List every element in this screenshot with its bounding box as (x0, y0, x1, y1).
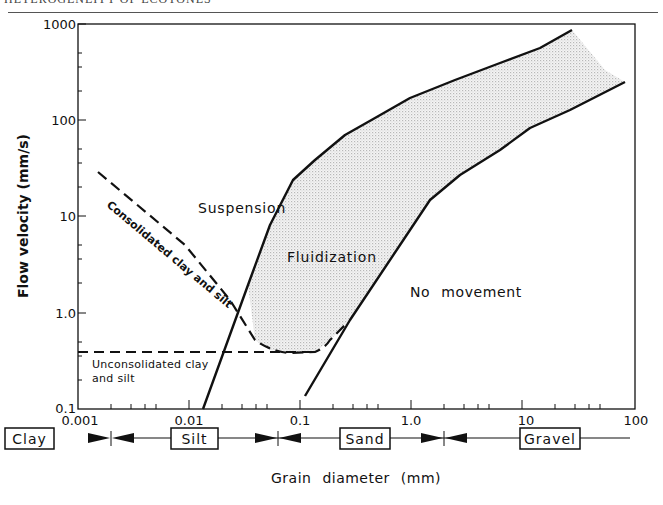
x-tick-100: 100 (624, 413, 649, 428)
suspension-label: Suspension (198, 200, 286, 216)
no-movement-label: No movement (410, 284, 522, 300)
x-tick-10: 10 (518, 413, 535, 428)
class-label-clay: Clay (12, 431, 47, 447)
fluidization-region (248, 30, 625, 353)
y-tick-labels: 1000 100 10 1.0 0.1 (43, 17, 76, 416)
y-axis-ticks (78, 24, 86, 380)
x-tick-1.0: 1.0 (401, 413, 422, 428)
x-axis-title: Grain diameter (mm) (271, 470, 441, 486)
x-tick-0.01: 0.01 (175, 413, 204, 428)
class-label-gravel: Gravel (524, 431, 576, 447)
fluidization-label: Fluidization (287, 249, 377, 265)
y-tick-100: 100 (51, 113, 76, 128)
unconsolidated-label-line1: Unconsolidated clay (92, 358, 209, 371)
y-tick-1000: 1000 (43, 17, 76, 32)
hjulstrom-chart: 1000 100 10 1.0 0.1 0.001 0.01 0.1 1.0 1… (0, 0, 663, 505)
class-label-sand: Sand (345, 431, 384, 447)
y-axis-title: Flow velocity (mm/s) (15, 134, 31, 298)
x-tick-labels: 0.001 0.01 0.1 1.0 10 100 (61, 413, 648, 428)
x-tick-0.1: 0.1 (290, 413, 311, 428)
class-label-silt: Silt (181, 431, 207, 447)
y-tick-1: 1.0 (55, 306, 76, 321)
x-axis-ticks (111, 400, 600, 409)
y-tick-10: 10 (59, 209, 76, 224)
x-tick-0.001: 0.001 (61, 413, 98, 428)
unconsolidated-label-line2: and silt (92, 372, 135, 385)
grain-class-scale: Clay Silt Sand Gravel (5, 428, 630, 449)
